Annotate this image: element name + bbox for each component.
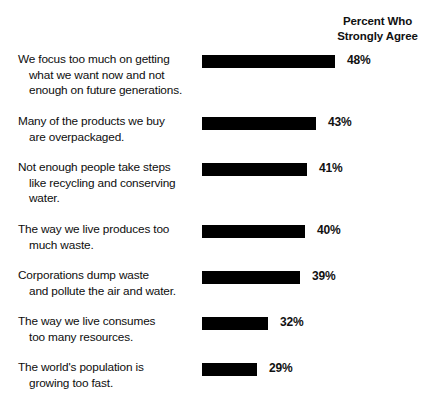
bar-category-label-line: We focus too much on getting — [18, 52, 198, 68]
bar-category-label-line: The way we live produces too — [18, 222, 198, 238]
bar-category-label-line: much waste. — [18, 238, 198, 254]
bar-value-label: 40% — [317, 223, 340, 237]
bar-category-label: Many of the products we buyare overpacka… — [18, 114, 198, 145]
bar-category-label: Not enough people take stepslike recycli… — [18, 160, 198, 207]
bar-category-label: Corporations dump wasteand pollute the a… — [18, 268, 198, 299]
bar-category-label-line: and pollute the air and water. — [18, 284, 198, 300]
bar — [202, 363, 257, 376]
bar-chart: Percent Who Strongly Agree We focus too … — [0, 0, 425, 395]
bar-value-label: 48% — [347, 53, 370, 67]
bar-value-label: 32% — [280, 315, 303, 329]
chart-rows: We focus too much on gettingwhat we want… — [0, 52, 425, 395]
value-column-header-line1: Percent Who — [330, 14, 425, 29]
chart-row: Many of the products we buyare overpacka… — [0, 114, 425, 160]
chart-row: The world's population isgrowing too fas… — [0, 360, 425, 395]
bar-category-label-line: water. — [18, 191, 198, 207]
bar-category-label-line: like recycling and conserving — [18, 176, 198, 192]
chart-row: We focus too much on gettingwhat we want… — [0, 52, 425, 114]
bar-category-label: The world's population isgrowing too fas… — [18, 360, 198, 391]
bar-value-label: 43% — [328, 115, 351, 129]
bar-category-label-line: are overpackaged. — [18, 130, 198, 146]
bar-category-label-line: The world's population is — [18, 360, 198, 376]
bar-value-label: 39% — [312, 269, 335, 283]
bar — [202, 163, 307, 176]
bar — [202, 55, 335, 68]
bar-category-label-line: Not enough people take steps — [18, 160, 198, 176]
bar-category-label-line: The way we live consumes — [18, 314, 198, 330]
bar-category-label-line: growing too fast. — [18, 376, 198, 392]
bar-category-label: The way we live consumestoo many resourc… — [18, 314, 198, 345]
bar-category-label-line: enough on future generations. — [18, 83, 198, 99]
bar — [202, 117, 316, 130]
bar — [202, 317, 268, 330]
chart-row: The way we live consumestoo many resourc… — [0, 314, 425, 360]
bar-value-label: 41% — [319, 161, 342, 175]
bar-category-label-line: Many of the products we buy — [18, 114, 198, 130]
chart-row: The way we live produces toomuch waste.4… — [0, 222, 425, 268]
bar — [202, 225, 305, 238]
bar-value-label: 29% — [269, 361, 292, 375]
bar — [202, 271, 300, 284]
bar-category-label-line: what we want now and not — [18, 68, 198, 84]
bar-category-label-line: too many resources. — [18, 330, 198, 346]
bar-category-label: The way we live produces toomuch waste. — [18, 222, 198, 253]
chart-row: Not enough people take stepslike recycli… — [0, 160, 425, 222]
bar-category-label: We focus too much on gettingwhat we want… — [18, 52, 198, 99]
value-column-header: Percent Who Strongly Agree — [330, 14, 425, 43]
value-column-header-line2: Strongly Agree — [330, 29, 425, 44]
bar-category-label-line: Corporations dump waste — [18, 268, 198, 284]
chart-row: Corporations dump wasteand pollute the a… — [0, 268, 425, 314]
